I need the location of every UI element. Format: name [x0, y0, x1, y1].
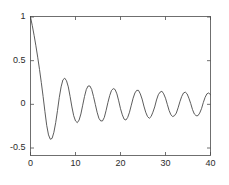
- x-tick-label: 20: [109, 159, 133, 168]
- x-tick-label: 10: [64, 159, 88, 168]
- x-tick-label: 30: [154, 159, 178, 168]
- y-tick-label: -0.5: [10, 143, 26, 152]
- y-tick-label: 1: [20, 12, 25, 21]
- chart-figure: -0.500.51 010203040: [0, 0, 229, 185]
- x-tick-label: 0: [19, 159, 43, 168]
- y-tick-label: 0.5: [13, 56, 26, 65]
- y-tick-label: 0: [20, 99, 25, 108]
- x-tick-label: 40: [199, 159, 223, 168]
